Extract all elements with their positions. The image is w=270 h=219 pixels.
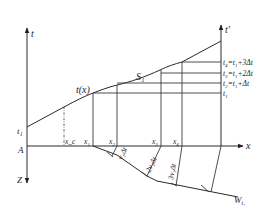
x-label-x4: x₄ [172,137,179,146]
time-distance-curve [27,41,221,127]
level-label-t1: t₁ [223,89,228,98]
x-axis-label: x [245,140,251,151]
ray-label-1: v₁Δt [116,145,130,161]
t-prime-axis-label: t′ [225,24,231,35]
curve-label: t(x) [76,84,91,96]
z-axis-label: Z [17,175,23,185]
origin-label: A [17,145,24,155]
x-label-x3: x₃ [151,137,158,146]
boundary-label: Wt₁ [234,195,245,206]
level-label-t2: t₂=t₁+Δt [223,79,250,88]
x-label-x1: x₁ [83,137,90,146]
level-label-t4: t₄=t₁+3Δt [223,58,254,67]
t-axis-label: t [31,28,34,39]
level-label-t3: t₃=t₁+2Δt [223,69,254,78]
t1-intercept-label: t₁ [17,126,23,136]
refractor-boundary [93,146,238,197]
boundary-subscript: t₁ [242,200,246,206]
wavefront-diagram: t t′ x Z A t₁ t(x) S₁ x_c x₁ x₂ x₃ x₄ t₄… [0,0,270,219]
segment-label: S₁ [136,71,144,82]
x-label-x2: x₂ [108,137,115,146]
ray-right [211,146,221,192]
ray-label-3: 3v₁Δt [166,162,178,181]
ray-label-2: 2v₁Δt [144,155,159,174]
x-label-xc: x_c [64,137,76,146]
